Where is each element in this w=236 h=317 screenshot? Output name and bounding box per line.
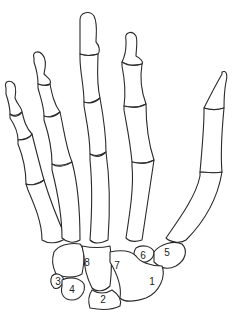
index-middle-phalanx xyxy=(122,62,146,107)
middle-proximal-phalanx xyxy=(84,98,106,155)
index-proximal-phalanx xyxy=(124,104,154,163)
middle-middle-phalanx xyxy=(80,54,100,103)
ring-proximal-phalanx xyxy=(44,112,72,165)
hand-skeleton-diagram: 1 2 3 4 5 6 7 8 xyxy=(0,0,236,317)
thumb-proximal-phalanx xyxy=(200,108,224,173)
index-finger xyxy=(122,33,154,242)
index-metacarpal xyxy=(126,160,154,241)
label-4: 4 xyxy=(69,284,75,295)
ring-distal-phalanx xyxy=(34,52,51,86)
label-6: 6 xyxy=(140,250,146,261)
label-8: 8 xyxy=(84,257,90,268)
label-3: 3 xyxy=(55,276,61,287)
label-2: 2 xyxy=(100,294,106,305)
thumb-distal-phalanx xyxy=(204,71,227,109)
little-distal-phalanx xyxy=(5,81,22,115)
middle-metacarpal xyxy=(90,152,109,243)
little-proximal-phalanx xyxy=(18,134,44,185)
label-5: 5 xyxy=(164,247,170,258)
carpal-7-capitate xyxy=(82,246,112,291)
thumb xyxy=(166,71,227,242)
hand-skeleton-svg: 1 2 3 4 5 6 7 8 xyxy=(0,0,236,317)
label-1: 1 xyxy=(149,276,155,287)
middle-distal-phalanx xyxy=(80,13,99,56)
thumb-metacarpal xyxy=(166,172,222,242)
index-distal-phalanx xyxy=(122,33,143,66)
carpal-8-hamate xyxy=(53,243,84,277)
little-middle-phalanx xyxy=(10,112,32,140)
label-7: 7 xyxy=(114,260,120,271)
middle-finger xyxy=(80,13,109,243)
ring-middle-phalanx xyxy=(38,84,60,117)
